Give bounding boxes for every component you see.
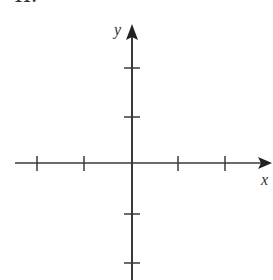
- x-axis-label: x: [260, 171, 268, 188]
- y-axis-label: y: [112, 21, 122, 39]
- coordinate-plane: y x: [0, 0, 273, 280]
- x-axis: [15, 156, 272, 171]
- y-axis: [124, 24, 140, 280]
